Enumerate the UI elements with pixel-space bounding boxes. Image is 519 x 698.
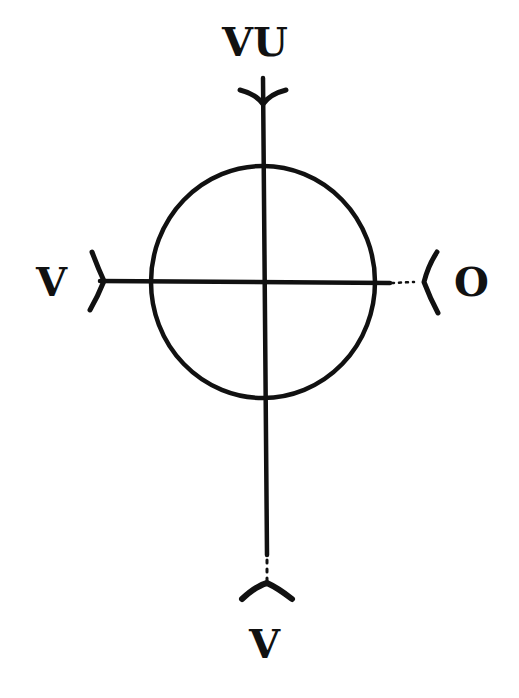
right-arrowhead-icon bbox=[424, 252, 438, 313]
label-top: VU bbox=[222, 22, 288, 62]
diagram-canvas: VU V O V bbox=[0, 0, 519, 698]
horizontal-axis-line bbox=[100, 281, 390, 283]
label-right: O bbox=[454, 262, 489, 302]
vertical-axis-line bbox=[263, 78, 267, 555]
left-arrowhead-icon bbox=[90, 252, 104, 310]
label-bottom: V bbox=[249, 624, 280, 664]
label-left: V bbox=[36, 262, 67, 302]
horizontal-axis-dotted-tail bbox=[392, 282, 414, 283]
bottom-arrowhead-icon bbox=[242, 583, 292, 599]
diagram-graphic bbox=[0, 0, 519, 698]
